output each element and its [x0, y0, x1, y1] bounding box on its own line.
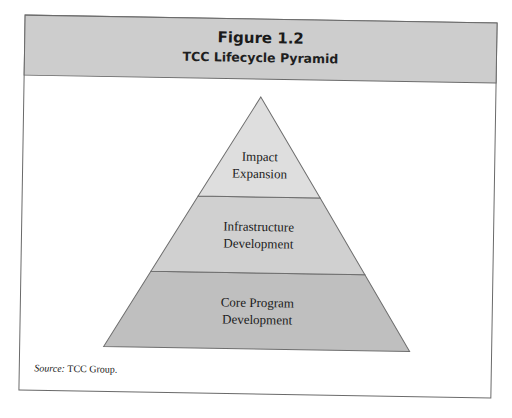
figure-canvas: Figure 1.2 TCC Lifecycle Pyramid Impact …	[0, 0, 512, 418]
figure-title: TCC Lifecycle Pyramid	[182, 49, 338, 67]
figure-header	[24, 15, 497, 83]
tier-top-line-2: Expansion	[232, 166, 288, 182]
tier-bottom-line-1: Core Program	[221, 294, 295, 310]
tier-middle-line-2: Development	[223, 235, 294, 251]
source-label: Source:	[34, 362, 65, 374]
tier-middle-line-1: Infrastructure	[223, 218, 294, 234]
pyramid-tier-core-program	[104, 270, 411, 351]
source-note: Source: TCC Group.	[34, 362, 117, 374]
tier-top-line-1: Impact	[242, 149, 279, 165]
figure-frame-group: Figure 1.2 TCC Lifecycle Pyramid Impact …	[19, 15, 497, 398]
tier-bottom-line-2: Development	[222, 311, 293, 327]
source-text: TCC Group.	[65, 363, 118, 375]
figure-label: Figure 1.2	[218, 28, 304, 47]
